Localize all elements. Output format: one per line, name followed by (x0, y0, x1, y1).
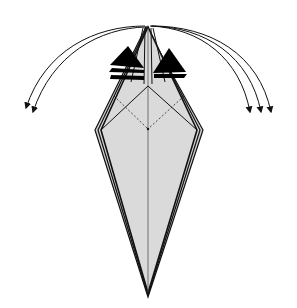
paper-body (95, 27, 203, 297)
center-point (147, 128, 149, 130)
origami-diagram (0, 0, 297, 308)
